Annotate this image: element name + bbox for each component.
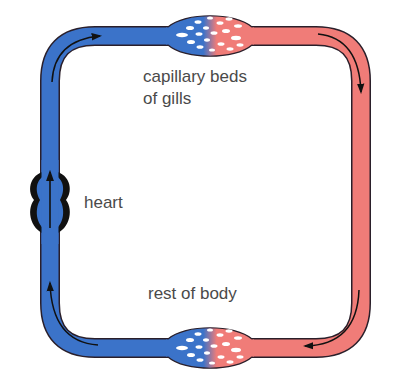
body-label: rest of body: [148, 283, 237, 305]
gills-label-line2: of gills: [143, 88, 247, 110]
circulation-diagram: [0, 0, 394, 384]
body-capillary-bed: [166, 328, 254, 369]
heart-label: heart: [84, 192, 123, 214]
oxygenated-vessel: [244, 36, 361, 348]
gills-label: capillary beds of gills: [143, 66, 247, 110]
gill-capillary-bed: [166, 16, 254, 57]
heart-icon: [30, 160, 70, 244]
gills-label-line1: capillary beds: [143, 66, 247, 88]
